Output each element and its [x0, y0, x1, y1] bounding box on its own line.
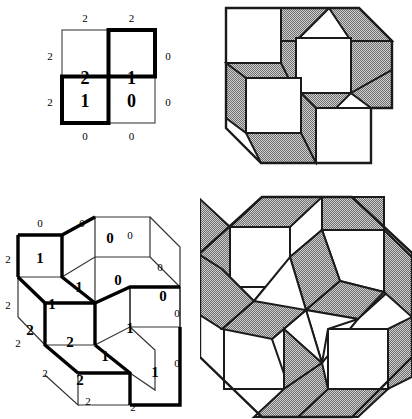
boundary-lower-left-0: 2 [15, 337, 21, 349]
grid-top-label-1: 2 [129, 12, 135, 24]
boundary-top-1: 0 [79, 217, 85, 229]
grid-cell-0-1: 1 [127, 68, 136, 88]
grid-right-label-1: 0 [165, 96, 171, 108]
boundary-lower-left-1: 2 [42, 367, 48, 379]
face-label-upper-right-top: 0 [106, 230, 114, 246]
grid-right-label-0: 0 [165, 50, 171, 62]
tile-white-3b [246, 78, 301, 133]
face-label-mid-left: 1 [48, 296, 56, 312]
face-label-right-side: 0 [159, 288, 167, 304]
boundary-right-0: 0 [174, 307, 180, 319]
boundary-bottom-0: 2 [85, 395, 91, 407]
face-label-upper-right-front: 0 [114, 272, 122, 288]
q3-white-sq [328, 329, 388, 389]
boundary-top-0: 0 [37, 217, 43, 229]
boundary-right-1: 0 [174, 357, 180, 369]
boundary-top-2: 0 [127, 229, 133, 241]
tile-f1 [281, 8, 329, 41]
face-label-top-left-top: 1 [36, 250, 44, 266]
grid-svg: 2 1 1 0 2 2 2 2 0 0 0 0 [0, 0, 206, 170]
boundary-left-0: 2 [5, 253, 11, 265]
grid-bottom-label-1: 0 [129, 130, 135, 142]
boundary-left-1: 2 [5, 299, 11, 311]
grid-top-label-0: 2 [82, 12, 88, 24]
boxes-svg: 1 1 0 0 0 1 2 2 1 1 2 1 0 0 0 0 0 0 2 2 … [0, 205, 206, 419]
tile-f4 [329, 8, 392, 41]
q2-shade-a [322, 197, 384, 230]
boundary-upper-right-0: 0 [157, 261, 163, 273]
tile-white-4b [316, 108, 371, 163]
face-label-lower-right-top: 1 [126, 320, 134, 336]
octagon-tiles [200, 197, 412, 417]
figure-bottom-right-octagon [200, 195, 412, 419]
figure-top-left-grid: 2 1 1 0 2 2 2 2 0 0 0 0 [0, 0, 206, 170]
grid-left-label-0: 2 [47, 50, 53, 62]
face-label-bottom-front: 2 [76, 372, 84, 388]
grid-cell-1-0: 1 [81, 91, 90, 111]
face-label-left-side: 2 [26, 322, 34, 338]
figure-top-right-tiling [206, 0, 412, 175]
figure-bottom-left-boxes: 1 1 0 0 0 1 2 2 1 1 2 1 0 0 0 0 0 0 2 2 … [0, 205, 206, 419]
lozenge-tiling-svg [206, 0, 412, 175]
grid-bold-path [62, 30, 155, 123]
q2-shade-b [384, 230, 412, 317]
face-label-center-right: 1 [101, 348, 109, 364]
octagon-tiling-svg [200, 195, 412, 419]
lozenge-tiles [226, 8, 392, 163]
face-label-lower-right-front: 1 [151, 364, 159, 380]
grid-left-label-1: 2 [47, 96, 53, 108]
grid-bottom-label-0: 0 [82, 130, 88, 142]
tile-white-2b [296, 38, 351, 93]
grid-cell-0-0: 2 [81, 68, 90, 88]
boundary-bottom-1: 2 [130, 401, 136, 413]
grid-cell-1-1: 0 [127, 91, 136, 111]
tile-white-1b [226, 8, 281, 63]
face-label-top-left-right: 1 [75, 279, 83, 295]
face-label-center-front: 2 [66, 334, 74, 350]
